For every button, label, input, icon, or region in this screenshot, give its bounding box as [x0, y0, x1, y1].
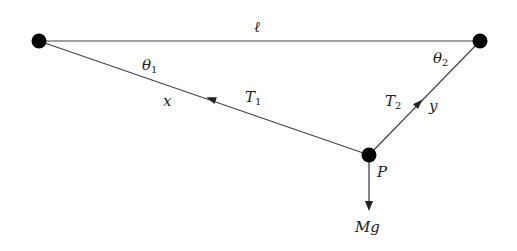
theta2-label: θ2 — [433, 49, 448, 68]
t2-label: T2 — [385, 92, 401, 111]
weight-arrowhead-icon — [365, 201, 373, 211]
point-p-dot — [362, 148, 377, 163]
weight-label: Mg — [354, 218, 380, 236]
y-label: y — [428, 97, 438, 115]
left-support-dot — [32, 34, 47, 49]
right-support-dot — [473, 34, 488, 49]
t1-label: T1 — [245, 88, 261, 107]
point-p-label: P — [376, 163, 388, 181]
x-label: x — [163, 92, 172, 110]
length-label: ℓ — [254, 18, 260, 36]
theta1-label: θ1 — [142, 56, 157, 75]
force-diagram: ℓ θ1 θ2 x T1 T2 y P Mg — [0, 0, 517, 251]
string-x — [39, 41, 369, 155]
